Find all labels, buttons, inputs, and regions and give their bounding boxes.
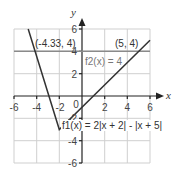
x-tick: 4 (125, 102, 131, 113)
x-tick: -6 (10, 102, 19, 113)
intersect-left-label: (-4.33, 4) (35, 38, 76, 49)
x-tick: -2 (56, 102, 65, 113)
f2-label: f2(x) = 4 (85, 56, 122, 67)
y-tick: -4 (68, 136, 77, 147)
y-axis-arrow-icon (79, 18, 86, 26)
x-tick: 6 (147, 102, 153, 113)
x-tick: 0 (73, 99, 79, 110)
y-axis-label: y (70, 6, 76, 18)
y-tick: 6 (71, 24, 77, 35)
y-tick: 2 (71, 69, 77, 80)
intersect-right-label: (5, 4) (115, 38, 138, 49)
x-axis-label: x (165, 89, 171, 101)
f1-label: f1(x) = 2|x + 2| - |x + 5| (62, 120, 162, 131)
graph: y x -6 -4 -2 0 2 4 6 6 4 2 -2 -4 -6 (-4.… (0, 0, 180, 180)
x-tick: -4 (32, 102, 41, 113)
x-axis-arrow-icon (156, 93, 164, 100)
y-tick: -6 (68, 158, 77, 169)
x-tick: 2 (102, 102, 108, 113)
